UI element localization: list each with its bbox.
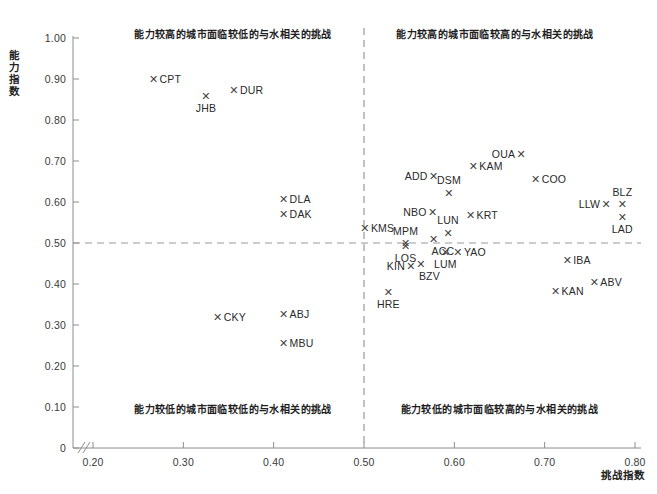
marker-cross-icon: ✕ [279,209,288,220]
marker-cross-icon: ✕ [453,247,462,258]
marker-cross-icon: ✕ [563,255,572,266]
data-point-label: LUM [434,259,457,270]
marker-cross-icon: ✕ [406,261,415,272]
data-point-label: MPM [393,226,418,237]
data-point-label: DLA [290,194,311,205]
y-tick-label: 0.60 [28,196,66,208]
quadrant-caption-top-left: 能力较高的城市面临较低的与水相关的挑战 [134,26,332,41]
scatter-chart: 能力指数 挑战指数 00.100.200.300.400.500.600.700… [0,0,657,494]
marker-cross-icon: ✕ [279,194,288,205]
y-tick-label: 0.50 [28,237,66,249]
y-tick-label: 0.80 [28,114,66,126]
data-point-label: JHB [196,103,216,114]
data-point-label: KAM [479,161,502,172]
data-point-label: LUN [437,215,459,226]
data-point-label: DUR [240,85,263,96]
data-point-label: CPT [160,73,182,84]
data-point-label: COO [542,173,567,184]
marker-cross-icon: ✕ [601,199,610,210]
quadrant-caption-bottom-right: 能力较低的城市面临较高的与水相关的挑战 [401,401,599,416]
data-point-label: YAO [464,247,486,258]
y-tick-label: 0 [28,442,66,454]
marker-cross-icon: ✕ [531,173,540,184]
quadrant-caption-bottom-left: 能力较低的城市面临较低的与水相关的挑战 [134,401,332,416]
data-point-label: ADD [405,171,428,182]
data-point-label: ABJ [290,309,310,320]
x-tick-label: 0.30 [173,456,194,468]
y-axis-title: 能力指数 [6,50,21,98]
quadrant-caption-top-right: 能力较高的城市面临较高的与水相关的挑战 [396,26,594,41]
marker-cross-icon: ✕ [441,247,450,258]
marker-cross-icon: ✕ [618,199,627,210]
marker-cross-icon: ✕ [429,234,438,245]
y-tick-label: 0.70 [28,155,66,167]
plot-canvas [0,0,657,494]
data-point-label: KMS [371,223,394,234]
x-tick-label: 0.60 [444,456,465,468]
marker-cross-icon: ✕ [360,222,369,233]
data-point-label: CKY [224,312,246,323]
marker-cross-icon: ✕ [213,311,222,322]
y-tick-label: 0.30 [28,319,66,331]
marker-cross-icon: ✕ [401,241,410,252]
data-point-label: ABV [600,276,622,287]
marker-cross-icon: ✕ [279,337,288,348]
x-axis-title: 挑战指数 [601,467,645,482]
marker-cross-icon: ✕ [618,212,627,223]
data-point-label: DSM [437,175,461,186]
marker-cross-icon: ✕ [201,91,210,102]
data-point-label: BLZ [612,187,632,198]
marker-cross-icon: ✕ [279,309,288,320]
y-tick-label: 0.20 [28,360,66,372]
marker-cross-icon: ✕ [428,206,437,217]
data-point-label: KRT [477,210,498,221]
x-tick-label: 0.40 [263,456,284,468]
marker-cross-icon: ✕ [416,258,425,269]
marker-cross-icon: ✕ [590,276,599,287]
marker-cross-icon: ✕ [229,85,238,96]
y-tick-label: 0.90 [28,73,66,85]
x-tick-label: 0.70 [534,456,555,468]
marker-cross-icon: ✕ [443,227,452,238]
marker-cross-icon: ✕ [444,187,453,198]
data-point-label: MBU [290,337,314,348]
marker-cross-icon: ✕ [469,160,478,171]
x-tick-label: 0.20 [82,456,103,468]
y-tick-label: 0.10 [28,401,66,413]
data-point-label: LLW [579,199,600,210]
x-tick-label: 0.80 [624,456,645,468]
marker-cross-icon: ✕ [517,149,526,160]
y-tick-label: 0.40 [28,278,66,290]
data-point-label: BZV [419,271,440,282]
marker-cross-icon: ✕ [466,210,475,221]
data-point-label: IBA [573,255,591,266]
x-tick-label: 0.50 [353,456,374,468]
data-point-label: KIN [387,261,405,272]
marker-cross-icon: ✕ [384,286,393,297]
marker-cross-icon: ✕ [551,285,560,296]
data-point-label: NBO [403,207,426,218]
data-point-label: HRE [377,299,400,310]
y-tick-label: 1.00 [28,32,66,44]
marker-cross-icon: ✕ [149,73,158,84]
data-point-label: LAD [612,224,633,235]
data-point-label: OUA [492,149,515,160]
data-point-label: KAN [562,286,584,297]
data-point-label: DAK [290,209,312,220]
